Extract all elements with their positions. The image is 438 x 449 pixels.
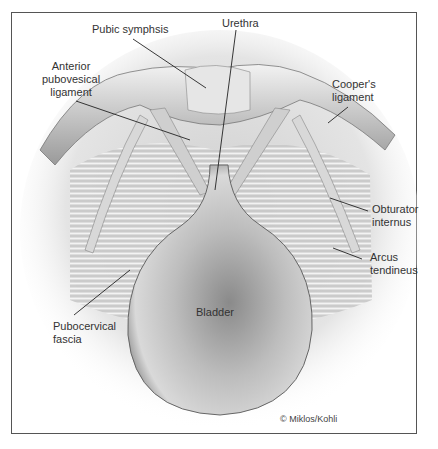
label-arcus-tendineus: Arcus tendineus xyxy=(370,251,418,277)
label-pubic-symphysis: Pubic symphsis xyxy=(92,23,168,36)
copyright-credit: © Miklos/Kohli xyxy=(280,413,337,426)
label-obturator-internus: Obturator internus xyxy=(372,203,418,229)
label-coopers-ligament: Cooper's ligament xyxy=(332,78,376,104)
label-bladder: Bladder xyxy=(196,306,234,319)
label-pubocervical-fascia: Pubocervical fascia xyxy=(53,320,116,346)
pubic-symphysis-shape xyxy=(185,65,250,114)
label-anterior-pubovesical-ligament: Anterior pubovesical ligament xyxy=(42,60,100,99)
label-urethra: Urethra xyxy=(222,17,259,30)
